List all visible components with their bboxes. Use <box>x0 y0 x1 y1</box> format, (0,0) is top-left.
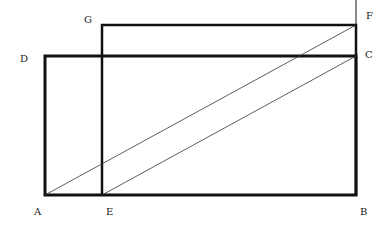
geometry-diagram: A E B D C G F <box>0 0 391 231</box>
rectangle-abcd <box>45 56 356 195</box>
label-d: D <box>20 53 28 64</box>
label-f: F <box>366 10 373 21</box>
rectangle-ebfg <box>102 25 356 195</box>
label-a: A <box>33 206 42 217</box>
diagonal-af <box>45 25 356 195</box>
label-c: C <box>365 49 373 60</box>
label-g: G <box>84 14 92 25</box>
label-e: E <box>106 206 113 217</box>
diagonal-ec <box>102 56 356 195</box>
label-b: B <box>360 206 367 217</box>
